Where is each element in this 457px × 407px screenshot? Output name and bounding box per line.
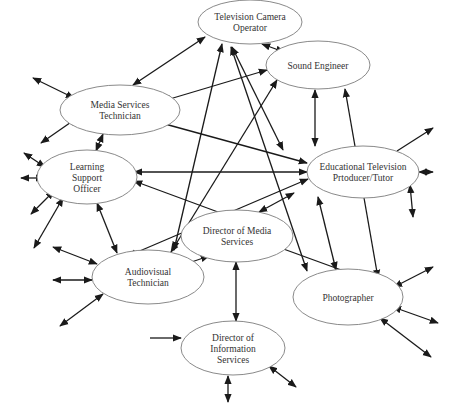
node-sound-eng: Sound Engineer <box>266 41 370 89</box>
node-label: Television Camera <box>214 12 286 22</box>
connection-arrow <box>154 121 307 163</box>
node-photographer: Photographer <box>293 269 403 325</box>
node-dir-media: Director of MediaServices <box>181 210 293 262</box>
node-label: Services <box>217 355 249 365</box>
connection-arrow <box>259 193 294 212</box>
connection-arrow <box>133 37 205 85</box>
node-label: Technician <box>99 111 141 121</box>
node-ellipse <box>92 250 204 304</box>
node-label: Learning <box>70 162 105 172</box>
external-connection-arrow <box>33 78 74 98</box>
external-connection-arrow <box>380 318 431 357</box>
external-connection-arrow <box>53 247 97 264</box>
node-ellipse <box>198 0 302 44</box>
node-label: Officer <box>73 184 101 194</box>
external-connection-arrow <box>397 128 433 151</box>
role-network-diagram: Television CameraOperatorMedia ServicesT… <box>0 0 457 407</box>
node-label: Prtoducer/Tutor <box>333 173 394 183</box>
node-tv-camera: Television CameraOperator <box>198 0 302 44</box>
external-connection-arrow <box>393 307 438 323</box>
node-label: Director of Media <box>203 226 272 236</box>
nodes-layer: Television CameraOperatorMedia ServicesT… <box>37 0 419 375</box>
node-label: Audiovisual <box>125 267 172 277</box>
node-label: Director of <box>212 333 255 343</box>
node-av-tech: AudiovisualTechnician <box>92 250 204 304</box>
external-connection-arrow <box>60 294 103 326</box>
external-connection-arrow <box>394 267 433 287</box>
node-label: Sound Engineer <box>288 61 350 71</box>
node-ellipse <box>181 210 293 262</box>
node-ellipse <box>307 146 419 198</box>
node-label: Photographer <box>322 293 374 303</box>
node-learning: LearningSupportOfficer <box>37 150 137 204</box>
connection-arrow <box>318 197 336 270</box>
node-label: Information <box>210 344 256 354</box>
node-label: Support <box>72 173 102 183</box>
external-connection-arrow <box>269 366 296 387</box>
connection-arrow <box>96 134 103 151</box>
node-label: Educational Television <box>319 162 406 172</box>
node-label: Operator <box>233 23 268 33</box>
node-media-tech: Media ServicesTechnician <box>60 85 180 135</box>
node-label: Media Services <box>91 100 150 110</box>
node-dir-info: Director ofInformationServices <box>181 321 285 375</box>
node-label: Technician <box>127 278 169 288</box>
node-label: Services <box>221 237 253 247</box>
node-ellipse <box>60 85 180 135</box>
external-connection-arrow <box>410 185 413 217</box>
node-edu-tv: Educational TelevisionPrtoducer/Tutor <box>307 146 419 198</box>
external-connection-arrow <box>34 198 63 248</box>
connection-arrow <box>97 203 117 253</box>
